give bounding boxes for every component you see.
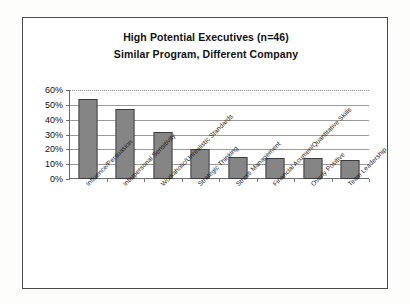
y-axis-tick-label: 60% xyxy=(45,86,63,95)
y-axis-tick xyxy=(66,179,70,180)
chart-title: High Potential Executives (n=46) xyxy=(23,29,389,46)
chart-frame: High Potential Executives (n=46) Similar… xyxy=(22,17,388,289)
y-axis-tick-label: 40% xyxy=(45,115,63,124)
x-axis-category-labels: Influence/PersuasionInterpersonal Sensit… xyxy=(69,181,399,301)
y-axis-tick-label: 50% xyxy=(45,100,63,109)
bar[interactable] xyxy=(78,99,97,179)
chart-subtitle: Similar Program, Different Company xyxy=(23,46,389,63)
y-axis-tick-label: 30% xyxy=(45,130,63,139)
page-background: High Potential Executives (n=46) Similar… xyxy=(0,0,410,304)
y-axis-tick-label: 10% xyxy=(45,160,63,169)
chart-title-block: High Potential Executives (n=46) Similar… xyxy=(23,29,389,63)
y-axis-tick-label: 0% xyxy=(50,175,63,184)
y-axis-tick-label: 20% xyxy=(45,145,63,154)
